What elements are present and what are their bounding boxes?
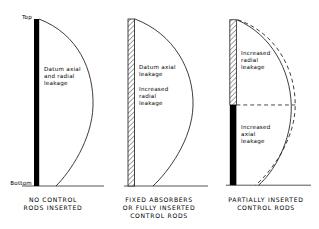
caption-fixed-absorbers: FIXED ABSORBERS OR FULLY INSERTED CONTRO… [106,196,212,221]
flux-curve-datum [39,19,93,186]
annotation-increased-radial: Increased radial leakage [139,86,168,108]
annotation-datum-axial-radial: Datum axial and radial leakage [44,66,81,88]
absorber-bar [128,19,135,186]
caption-partially-inserted: PARTIALLY INSERTED CONTROL RODS [213,196,319,212]
flux-distribution-figure: Top Bottom Datum axial and radial leakag… [0,0,319,229]
absorber-bar-upper [230,20,237,105]
annotation-increased-axial: Increased axial leakage [241,124,270,146]
panel-fixed-absorbers: Datum axial leakage Increased radial lea… [106,0,212,229]
caption-no-control-rods: NO CONTROL RODS INSERTED [0,196,106,212]
annotation-datum-axial: Datum axial leakage [139,64,176,78]
label-bottom: Bottom [0,180,32,186]
label-top: Top [2,14,32,20]
panel-no-control-rods: Top Bottom Datum axial and radial leakag… [0,0,106,229]
panel-3-graphic [212,0,318,200]
control-rod-bar-lower [230,105,237,185]
annotation-increased-radial: Increased radial leakage [241,50,270,72]
flux-curve-solid [237,20,292,185]
panel-1-graphic [0,0,106,200]
panel-partially-inserted: Increased radial leakage Increased axial… [212,0,318,229]
control-rod-bar [34,19,39,186]
flux-curve-dashed-reference [238,20,295,185]
